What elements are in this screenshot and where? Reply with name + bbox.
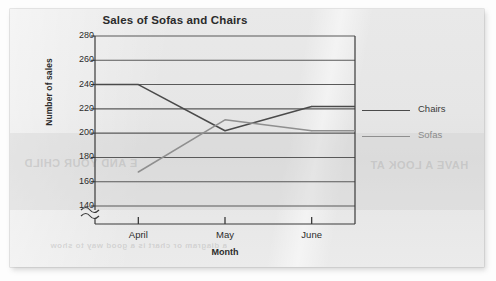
legend-label-sofas: Sofas [418, 129, 442, 140]
legend-label-chairs: Chairs [418, 103, 445, 114]
x-tick-may: May [197, 229, 253, 240]
y-tick-140: 140 [60, 200, 94, 210]
legend-swatch-sofas [362, 136, 410, 137]
x-tick-june: June [284, 229, 340, 240]
scanned-page: E AND YOUR CHILD HAVE A LOOK AT a diagra… [10, 9, 484, 267]
legend-item-chairs[interactable]: Chairs [362, 99, 482, 125]
data-series [95, 85, 355, 172]
y-axis-tick-labels: 140160180200220240260280 [60, 9, 94, 267]
y-tick-180: 180 [60, 151, 94, 161]
y-tick-200: 200 [60, 127, 94, 137]
x-axis-title: Month [95, 247, 355, 257]
legend-swatch-chairs [362, 110, 410, 111]
line-chart: Sales of Sofas and Chairs Number of sale… [10, 9, 484, 267]
y-axis-title: Number of sales [44, 47, 54, 137]
chart-legend: ChairsSofas [362, 99, 482, 151]
y-tick-260: 260 [60, 54, 94, 64]
series-line-chairs [138, 85, 311, 131]
gridlines [95, 36, 355, 206]
series-line-sofas [138, 120, 311, 172]
legend-item-sofas[interactable]: Sofas [362, 125, 482, 151]
y-tick-240: 240 [60, 79, 94, 89]
y-tick-280: 280 [60, 30, 94, 40]
x-tick-april: April [110, 229, 166, 240]
x-axis-ticks [138, 217, 311, 224]
screenshot-root: E AND YOUR CHILD HAVE A LOOK AT a diagra… [0, 0, 496, 281]
y-tick-160: 160 [60, 176, 94, 186]
y-tick-220: 220 [60, 103, 94, 113]
